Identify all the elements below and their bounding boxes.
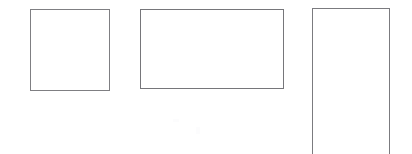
paper-speckle [196, 127, 200, 134]
rectangle-landscape [140, 9, 284, 89]
rectangle-square [30, 9, 110, 91]
rectangle-portrait [312, 8, 390, 154]
paper-speckle [173, 119, 179, 122]
drawing-canvas [0, 0, 412, 154]
